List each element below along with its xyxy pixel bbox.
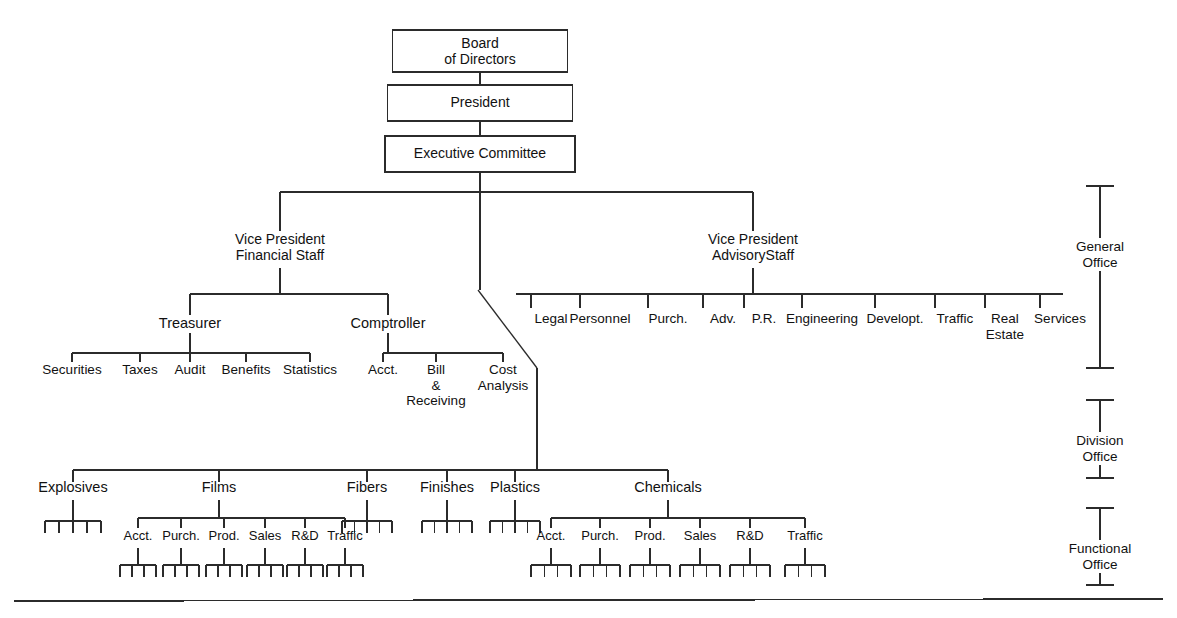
label-films-function: Purch. (162, 529, 200, 544)
label-treasurer-report: Securities (42, 362, 101, 377)
label-advisory-item: Purch. (648, 311, 687, 326)
label-division-office: Division Office (1072, 432, 1127, 465)
label-board: Board of Directors (444, 35, 516, 67)
label-films-function: Prod. (208, 529, 239, 544)
label-comptroller-report: Acct. (368, 362, 398, 377)
org-chart-diagram: Board of DirectorsPresidentExecutive Com… (0, 0, 1177, 618)
label-chemicals-function: Sales (684, 529, 717, 544)
label-films-function: Traffic (327, 529, 362, 544)
label-advisory-item: Real Estate (986, 311, 1024, 342)
label-division-fibers: Fibers (347, 479, 387, 495)
label-chemicals-function: Purch. (581, 529, 619, 544)
label-films-function: Sales (249, 529, 282, 544)
label-chemicals-function: Prod. (634, 529, 665, 544)
label-comptroller: Comptroller (351, 315, 426, 331)
label-treasurer-report: Statistics (283, 362, 337, 377)
label-chemicals-function: Traffic (787, 529, 822, 544)
label-advisory-item: Developt. (866, 311, 923, 326)
label-films-function: Acct. (124, 529, 153, 544)
label-treasurer: Treasurer (159, 315, 221, 331)
label-treasurer-report: Benefits (222, 362, 271, 377)
label-chemicals-function: R&D (736, 529, 763, 544)
chart-line-layer (0, 0, 1177, 618)
label-vp-financial: Vice President Financial Staff (235, 231, 325, 263)
label-advisory-item: Personnel (570, 311, 631, 326)
label-division-plastics: Plastics (490, 479, 540, 495)
label-advisory-item: Services (1034, 311, 1086, 326)
label-chemicals-function: Acct. (537, 529, 566, 544)
label-division-films: Films (202, 479, 237, 495)
label-treasurer-report: Audit (175, 362, 206, 377)
label-vp-advisory: Vice President AdvisoryStaff (708, 231, 798, 263)
label-advisory-item: P.R. (752, 311, 777, 326)
label-advisory-item: Legal (534, 311, 567, 326)
exec-to-divisions-diagonal (478, 290, 537, 368)
label-exec: Executive Committee (414, 146, 546, 162)
label-division-chemicals: Chemicals (634, 479, 702, 495)
label-division-finishes: Finishes (420, 479, 474, 495)
label-division-explosives: Explosives (38, 479, 107, 495)
label-general-office: General Office (1072, 238, 1128, 271)
label-advisory-item: Engineering (786, 311, 858, 326)
label-films-function: R&D (291, 529, 318, 544)
label-president: President (450, 95, 509, 111)
footer-rule (14, 599, 1163, 601)
label-advisory-item: Adv. (710, 311, 736, 326)
label-comptroller-report: Bill & Receiving (406, 362, 465, 409)
label-treasurer-report: Taxes (122, 362, 157, 377)
label-comptroller-report: Cost Analysis (478, 362, 528, 393)
label-functional-office: Functional Office (1065, 540, 1135, 573)
label-advisory-item: Traffic (937, 311, 974, 326)
